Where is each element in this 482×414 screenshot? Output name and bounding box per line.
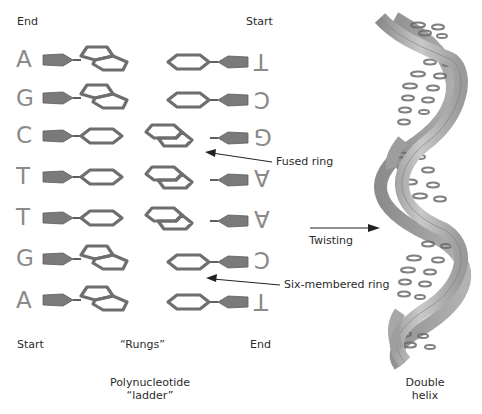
helix-caption-line1: Double [390,376,460,389]
helix-caption-line2: helix [390,389,460,402]
helix-caption: Double helix [390,376,460,402]
double-helix-graphic [0,0,482,414]
